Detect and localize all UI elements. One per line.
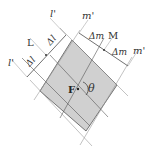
label-l-prime-bottom: l' <box>8 57 14 68</box>
diagram-canvas: l' l' L Δl Δl m' m' M Δm Δm F θ <box>0 0 158 160</box>
label-m-prime-top: m' <box>82 10 94 21</box>
label-M: M <box>108 30 118 41</box>
label-delta-l-1: Δl <box>23 55 37 69</box>
parallelogram-diagram: l' l' L Δl Δl m' m' M Δm Δm F θ <box>0 0 158 160</box>
extension-line-m1 <box>79 20 88 33</box>
label-F: F <box>68 84 75 95</box>
label-m-prime-right: m' <box>133 45 145 56</box>
tick-l-mid <box>45 54 47 56</box>
label-L: L <box>27 37 34 48</box>
label-theta: θ <box>88 82 95 95</box>
label-delta-m-2: Δm <box>111 47 127 57</box>
point-F <box>77 88 79 90</box>
tick-m-mid <box>103 49 105 51</box>
label-delta-m-1: Δm <box>88 31 104 41</box>
extension-line-l3 <box>50 18 66 35</box>
label-l-prime-top: l' <box>50 8 56 19</box>
